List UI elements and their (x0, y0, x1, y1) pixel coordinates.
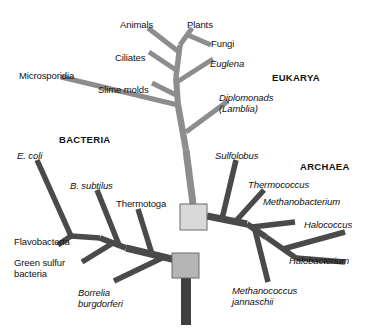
taxon-label-plants: Plants (187, 19, 213, 30)
branch-br-methanobacterium (252, 222, 295, 227)
branch-br-halococcus (283, 232, 345, 249)
taxon-label-halobacterium: Halobacterium (289, 255, 349, 266)
taxon-label-sulfolobus: Sulfolobus (215, 150, 258, 161)
branch-bac-branch-3 (71, 236, 100, 238)
taxon-label-b-subtilus: B. subtilus (70, 180, 113, 191)
taxon-label-euglena: Euglena (210, 58, 244, 69)
tree-nodes-layer (172, 204, 207, 278)
taxon-label-slime-molds: Slime molds (98, 84, 149, 95)
branch-br-e-coli (37, 160, 71, 236)
branch-br-animals (148, 28, 179, 52)
taxon-label-halococcus: Halococcus (304, 219, 352, 230)
phylogenetic-tree-figure: AnimalsPlantsFungiCiliatesEuglenaMicrosp… (0, 0, 380, 333)
taxon-label-e-coli: E. coli (17, 150, 42, 161)
taxon-label-thermotoga: Thermotoga (116, 198, 166, 209)
taxon-label-microsporidia: Microsporidia (19, 70, 74, 81)
taxon-label-green-sulfur: Green sulfur bacteria (14, 257, 65, 279)
node-lower (172, 253, 199, 278)
domain-label-bacteria: BACTERIA (59, 134, 110, 145)
taxon-label-fungi: Fungi (211, 38, 234, 49)
domain-label-archaea: ARCHAEA (300, 161, 350, 172)
taxon-label-animals: Animals (120, 19, 153, 30)
branch-br-green-sulfur (82, 243, 113, 262)
taxon-label-methanobacterium: Methanobacterium (263, 196, 340, 207)
branch-euk-trunk-mid (178, 105, 186, 150)
taxon-label-flavobacteria: Flavobacteria (14, 236, 70, 247)
branch-br-thermotoga (138, 209, 152, 254)
branch-br-euglena (177, 59, 213, 82)
taxon-label-ciliates: Ciliates (115, 52, 145, 63)
branch-br-sulfolobus (222, 160, 236, 219)
branch-br-thermococcus (235, 190, 264, 222)
branch-br-borrelia (114, 258, 162, 281)
node-upper (180, 204, 207, 230)
taxon-label-borrelia: Borrelia burgdorferi (78, 287, 123, 309)
domain-label-eukarya: EUKARYA (272, 72, 320, 83)
branch-br-fungi (188, 35, 211, 45)
branch-br-ciliates (149, 52, 176, 70)
taxon-label-diplomonads: Diplomonads (Lamblia) (219, 92, 273, 114)
branch-euk-trunk-lower (186, 150, 193, 204)
taxon-label-thermococcus: Thermococcus (248, 179, 309, 190)
taxon-label-methanococcus: Methanococcus jannaschii (232, 285, 297, 307)
